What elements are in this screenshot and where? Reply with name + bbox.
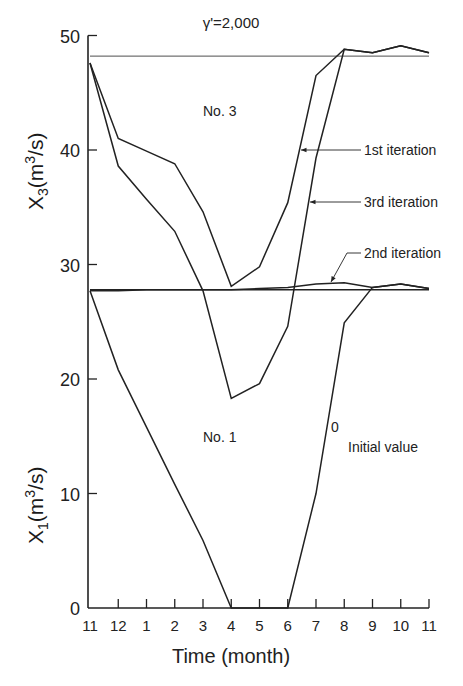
x-tick-label: 5: [255, 617, 263, 634]
chart: 0102030405011121234567891011γ'=2,000No. …: [0, 0, 463, 686]
x-tick-label: 6: [284, 617, 292, 634]
x-tick-label: 2: [171, 617, 179, 634]
x-tick-label: 9: [368, 617, 376, 634]
x-tick-label: 1: [142, 617, 150, 634]
x-tick-label: 12: [110, 617, 127, 634]
y-tick-label: 40: [60, 141, 80, 161]
arrow-1st-iteration-head: [301, 148, 307, 153]
annotation-2nd-iteration: 2nd iteration: [364, 245, 441, 261]
y-tick-label: 30: [60, 256, 80, 276]
y-tick-label: 20: [60, 370, 80, 390]
annotation-no1: No. 1: [203, 429, 237, 445]
x-tick-label: 10: [392, 617, 409, 634]
x-tick-label: 3: [199, 617, 207, 634]
x-tick-label: 4: [227, 617, 235, 634]
x-tick-label: 8: [340, 617, 348, 634]
annotation-initial-value: Initial value: [348, 439, 418, 455]
y-axis-label-lower: X1(m3/s): [22, 467, 51, 544]
x-tick-label: 11: [421, 617, 437, 634]
annotation-no3: No. 3: [203, 103, 237, 119]
arrow-3rd-iteration-head: [310, 200, 316, 205]
x-tick-label: 7: [312, 617, 320, 634]
x-tick-label: 11: [82, 617, 98, 634]
annotation-1st-iteration: 1st iteration: [364, 142, 436, 158]
chart-title: γ'=2,000: [203, 14, 260, 31]
y-axis-label-upper: X3(m3/s): [22, 133, 51, 210]
y-tick-label: 50: [60, 27, 80, 47]
x-axis-label: Time (month): [172, 645, 290, 667]
y-tick-label: 10: [60, 485, 80, 505]
series-line: [90, 46, 429, 399]
y-tick-label: 0: [70, 599, 80, 619]
annotation-3rd-iteration: 3rd iteration: [364, 194, 438, 210]
annotation-initial-zero: 0: [331, 419, 339, 435]
plot-area: 0102030405011121234567891011γ'=2,000No. …: [0, 0, 463, 686]
